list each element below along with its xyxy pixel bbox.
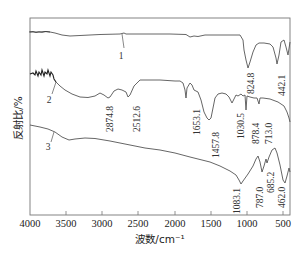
peak-787-0: 787.0 [255, 186, 265, 208]
tick-1500: 1500 [201, 218, 222, 229]
tick-2500: 2500 [128, 218, 149, 229]
curve-1 [30, 32, 290, 69]
plot-frame [30, 18, 290, 215]
tick-3000: 3000 [92, 218, 113, 229]
curve-3-leader [51, 132, 54, 142]
peak-878-4: 878.4 [251, 122, 261, 144]
curve-2-noisy-start [30, 70, 56, 82]
peak-462-0: 462.0 [277, 186, 287, 208]
tick-2000: 2000 [165, 218, 186, 229]
curve-3-label: 3 [46, 142, 51, 152]
peak-1083-1: 1083.1 [232, 188, 242, 214]
tick-500: 500 [275, 218, 291, 229]
curve-2-label: 2 [47, 95, 52, 105]
tick-4000: 4000 [20, 218, 41, 229]
curve-1-leader [122, 34, 124, 48]
peak-824-8: 824.8 [246, 72, 256, 94]
x-axis-tick-labels: 4000 3500 3000 2500 2000 1500 1000 500 [20, 218, 291, 229]
peak-685-2: 685.2 [266, 171, 276, 193]
ftir-spectra-chart: 4000 3500 3000 2500 2000 1500 1000 500 波… [0, 0, 302, 254]
peak-1653-1: 1653.1 [192, 109, 202, 135]
peak-1030-5: 1030.5 [236, 113, 246, 139]
peak-1457-8: 1457.8 [211, 132, 221, 158]
curve-1-label: 1 [119, 51, 124, 61]
tick-3500: 3500 [56, 218, 77, 229]
peak-2512-6: 2512.6 [132, 106, 142, 132]
x-axis-title: 波数/cm⁻¹ [135, 233, 184, 245]
peak-442-1: 442.1 [277, 74, 287, 96]
peak-713-0: 713.0 [264, 122, 274, 144]
curve-2-leader [52, 82, 56, 94]
peak-annotations: 824.8 442.1 2874.8 2512.6 1653.1 1457.8 … [105, 72, 287, 214]
y-axis-title: 反射比/% [12, 96, 24, 140]
x-axis-ticks [66, 211, 283, 215]
peak-2874-8: 2874.8 [105, 106, 115, 132]
tick-1000: 1000 [237, 218, 258, 229]
